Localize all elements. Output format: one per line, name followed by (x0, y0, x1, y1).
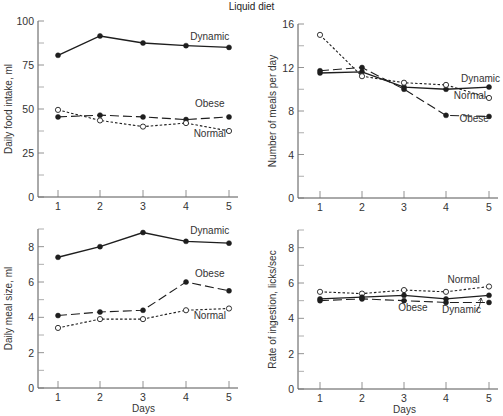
filled-circle-marker (98, 310, 103, 315)
chart-panel-meal_size: 0246812345Daily meal size, mlDaysDynamic… (3, 225, 238, 414)
series-label: Normal (194, 310, 226, 321)
filled-circle-marker (184, 239, 189, 244)
open-circle-marker (317, 32, 322, 37)
chart-panel-meals_per_day: 048121612345Number of meals per dayDynam… (267, 18, 500, 213)
filled-circle-marker (141, 41, 146, 46)
y-axis-label: Number of meals per day (267, 55, 278, 167)
x-tick-label: 2 (97, 200, 103, 212)
open-circle-marker (443, 289, 448, 294)
x-tick-label: 4 (443, 392, 449, 404)
filled-circle-marker (184, 280, 189, 285)
y-tick-label: 0 (288, 192, 294, 204)
open-circle-marker (140, 124, 145, 129)
filled-circle-marker (56, 53, 61, 58)
filled-circle-marker (56, 255, 61, 260)
x-tick-label: 4 (183, 200, 189, 212)
series-label: Normal (448, 274, 480, 285)
open-circle-marker (97, 118, 102, 123)
x-tick-label: 5 (226, 200, 232, 212)
open-circle-marker (443, 82, 448, 87)
x-tick-label: 3 (401, 392, 407, 404)
series-label: Dynamic (190, 225, 229, 236)
open-circle-marker (183, 308, 188, 313)
y-tick-label: 100 (16, 15, 34, 27)
x-tick-label: 1 (55, 391, 61, 403)
x-tick-label: 2 (97, 391, 103, 403)
x-tick-label: 1 (317, 201, 323, 213)
x-tick-label: 3 (140, 200, 146, 212)
y-tick-label: 50 (22, 103, 34, 115)
chart-panel-ingestion_rate: 0246812345Rate of ingestion, licks/secDa… (267, 230, 498, 415)
y-tick-label: 25 (22, 147, 34, 159)
x-tick-label: 1 (317, 392, 323, 404)
filled-circle-marker (56, 313, 61, 318)
filled-circle-marker (444, 113, 449, 118)
open-circle-marker (359, 74, 364, 79)
series-label: Obese (195, 268, 225, 279)
x-tick-label: 5 (486, 201, 492, 213)
filled-circle-marker (227, 45, 232, 50)
series-label: Obese (398, 302, 428, 313)
y-tick-label: 4 (28, 311, 34, 323)
x-tick-label: 3 (401, 201, 407, 213)
open-circle-marker (183, 120, 188, 125)
y-tick-label: 8 (288, 242, 294, 254)
filled-circle-marker (141, 114, 146, 119)
open-circle-marker (401, 80, 406, 85)
filled-circle-marker (318, 68, 323, 73)
y-tick-label: 75 (22, 59, 34, 71)
filled-circle-marker (227, 114, 232, 119)
y-tick-label: 6 (288, 277, 294, 289)
filled-circle-marker (184, 43, 189, 48)
chart-panel-food_intake: 025507510012345Daily food intake, mlDyna… (3, 15, 238, 212)
x-tick-label: 2 (359, 392, 365, 404)
x-axis-label: Days (393, 404, 416, 415)
x-tick-label: 3 (140, 391, 146, 403)
y-tick-label: 4 (288, 312, 294, 324)
y-axis-label: Daily meal size, ml (3, 267, 14, 350)
series-label: Dynamic (461, 73, 500, 84)
series-label: Obese (195, 98, 225, 109)
y-tick-label: 0 (28, 382, 34, 394)
filled-circle-marker (487, 293, 492, 298)
open-circle-marker (486, 95, 491, 100)
y-axis-label: Rate of ingestion, licks/sec (267, 250, 278, 368)
y-tick-label: 0 (28, 191, 34, 203)
open-circle-marker (55, 325, 60, 330)
filled-circle-marker (141, 308, 146, 313)
y-tick-label: 8 (288, 105, 294, 117)
filled-circle-marker (98, 33, 103, 38)
filled-circle-marker (227, 241, 232, 246)
y-tick-label: 0 (288, 383, 294, 395)
open-circle-marker (317, 289, 322, 294)
series-label: Normal (194, 128, 226, 139)
open-circle-marker (486, 284, 491, 289)
open-circle-marker (140, 317, 145, 322)
filled-circle-marker (56, 114, 61, 119)
series-label: Normal (454, 90, 486, 101)
filled-circle-marker (402, 87, 407, 92)
series-label: Obese (459, 113, 489, 124)
filled-circle-marker (98, 244, 103, 249)
open-circle-marker (226, 128, 231, 133)
y-tick-label: 6 (28, 276, 34, 288)
open-circle-marker (401, 287, 406, 292)
filled-circle-marker (98, 113, 103, 118)
x-tick-label: 1 (55, 200, 61, 212)
y-tick-label: 2 (288, 348, 294, 360)
filled-circle-marker (227, 288, 232, 293)
open-circle-marker (55, 107, 60, 112)
filled-circle-marker (141, 230, 146, 235)
y-axis-label: Daily food intake, ml (3, 64, 14, 154)
y-tick-label: 12 (282, 62, 294, 74)
x-tick-label: 2 (359, 201, 365, 213)
figure-canvas: 025507510012345Daily food intake, mlDyna… (0, 0, 503, 416)
open-circle-marker (226, 306, 231, 311)
y-tick-label: 16 (282, 18, 294, 30)
series-obese (56, 113, 232, 122)
x-tick-label: 4 (443, 201, 449, 213)
filled-circle-marker (360, 65, 365, 70)
y-tick-label: 2 (28, 347, 34, 359)
filled-circle-marker (318, 298, 323, 303)
x-tick-label: 5 (226, 391, 232, 403)
